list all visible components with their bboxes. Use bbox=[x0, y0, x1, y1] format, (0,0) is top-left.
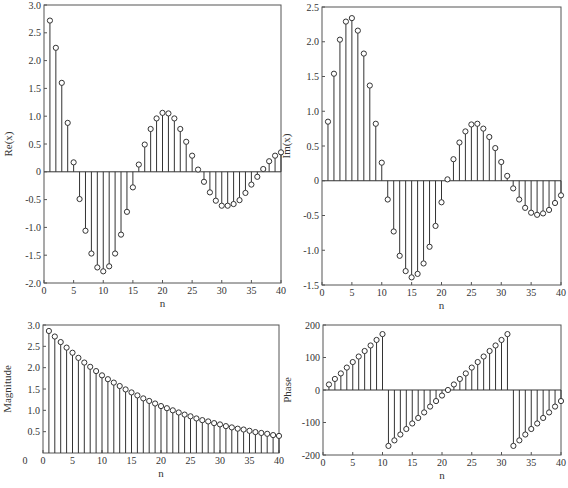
stem-marker bbox=[392, 438, 397, 443]
x-tick-label: 0 bbox=[41, 455, 46, 466]
stem-marker bbox=[439, 393, 444, 398]
y-axis-label: Phase bbox=[281, 377, 293, 403]
stem-marker bbox=[153, 401, 158, 406]
y-tick-label: 0.5 bbox=[307, 141, 320, 152]
stem-marker bbox=[422, 410, 427, 415]
stem-marker bbox=[46, 328, 51, 333]
stem-marker bbox=[219, 203, 224, 208]
stem-marker bbox=[170, 408, 175, 413]
stem-marker bbox=[160, 110, 165, 115]
x-tick-label: 15 bbox=[407, 457, 417, 468]
stem-marker bbox=[71, 160, 76, 165]
stem-marker bbox=[404, 426, 409, 431]
x-tick-label: 5 bbox=[349, 287, 354, 298]
x-tick-label: 5 bbox=[350, 457, 355, 468]
stem-marker bbox=[511, 443, 516, 448]
x-tick-label: 5 bbox=[71, 285, 76, 296]
stem-marker bbox=[332, 376, 337, 381]
stem-marker bbox=[540, 211, 545, 216]
x-tick-label: 0 bbox=[320, 287, 325, 298]
stem-marker bbox=[194, 416, 199, 421]
x-tick-label: 20 bbox=[158, 285, 168, 296]
y-tick-label: 100 bbox=[305, 352, 320, 363]
stem-marker bbox=[207, 190, 212, 195]
stem-plot-figure: 0510152025303540-2.0-1.5-1.0-0.500.51.01… bbox=[0, 0, 568, 488]
stem-marker bbox=[469, 365, 474, 370]
stem-marker bbox=[88, 364, 93, 369]
stem-marker bbox=[386, 443, 391, 448]
stem-marker bbox=[373, 121, 378, 126]
x-tick-label: 30 bbox=[497, 457, 507, 468]
x-tick-label: 20 bbox=[437, 287, 447, 298]
y-tick-label: -1.5 bbox=[303, 280, 319, 291]
stem-marker bbox=[355, 28, 360, 33]
stem-marker bbox=[463, 129, 468, 134]
stem-marker bbox=[158, 403, 163, 408]
x-tick-label: 35 bbox=[526, 457, 536, 468]
stem-marker bbox=[362, 348, 367, 353]
stem-marker bbox=[231, 201, 236, 206]
stem-marker bbox=[172, 116, 177, 121]
y-tick-label: -1.0 bbox=[303, 245, 319, 256]
stem-marker bbox=[107, 264, 112, 269]
stem-marker bbox=[326, 382, 331, 387]
y-tick-label: 1.0 bbox=[28, 405, 41, 416]
x-tick-label: 10 bbox=[98, 285, 108, 296]
x-tick-label: 20 bbox=[437, 457, 447, 468]
stem-marker bbox=[59, 80, 64, 85]
stem-marker bbox=[331, 71, 336, 76]
stem-marker bbox=[235, 426, 240, 431]
x-tick-label: 35 bbox=[245, 455, 255, 466]
y-tick-label: -0.5 bbox=[303, 210, 319, 221]
stem-marker bbox=[451, 157, 456, 162]
stem-marker bbox=[52, 334, 57, 339]
stem-marker bbox=[487, 348, 492, 353]
x-tick-label: 15 bbox=[128, 285, 138, 296]
stem-marker bbox=[379, 160, 384, 165]
y-tick-label: 0.5 bbox=[29, 139, 42, 150]
y-tick-label: 2.5 bbox=[29, 27, 42, 38]
stem-marker bbox=[511, 186, 516, 191]
stem-marker bbox=[200, 418, 205, 423]
stem-marker bbox=[178, 126, 183, 131]
stem-marker bbox=[475, 359, 480, 364]
stem-marker bbox=[148, 126, 153, 131]
stem-marker bbox=[265, 431, 270, 436]
stem-marker bbox=[493, 343, 498, 348]
stem-marker bbox=[547, 410, 552, 415]
x-tick-label: 25 bbox=[466, 287, 476, 298]
stem-marker bbox=[445, 177, 450, 182]
y-tick-label: 0.5 bbox=[28, 426, 41, 437]
x-tick-label: 40 bbox=[276, 285, 286, 296]
stem-marker bbox=[195, 167, 200, 172]
stem-marker bbox=[558, 398, 563, 403]
stem-marker bbox=[141, 396, 146, 401]
stem-marker bbox=[337, 37, 342, 42]
stem-marker bbox=[349, 16, 354, 21]
stem-marker bbox=[118, 232, 123, 237]
x-tick-label: 15 bbox=[407, 287, 417, 298]
stem-marker bbox=[558, 193, 563, 198]
stem-marker bbox=[190, 153, 195, 158]
y-tick-label: 1.0 bbox=[307, 106, 320, 117]
stem-marker bbox=[398, 432, 403, 437]
stem-marker bbox=[117, 383, 122, 388]
stem-marker bbox=[130, 185, 135, 190]
stem-marker bbox=[338, 371, 343, 376]
stem-marker bbox=[247, 428, 252, 433]
stem-marker bbox=[267, 159, 272, 164]
x-axis-label: n bbox=[439, 469, 445, 481]
x-axis-label: n bbox=[160, 297, 166, 309]
stem-marker bbox=[487, 134, 492, 139]
y-tick-label: -0.5 bbox=[25, 194, 41, 205]
stem-marker bbox=[241, 427, 246, 432]
stem-marker bbox=[237, 198, 242, 203]
stem-marker bbox=[445, 387, 450, 392]
stem-marker bbox=[271, 432, 276, 437]
stem-marker bbox=[499, 159, 504, 164]
stem-marker bbox=[457, 376, 462, 381]
stem-marker bbox=[403, 269, 408, 274]
stem-marker bbox=[276, 433, 281, 438]
stem-marker bbox=[481, 126, 486, 131]
stem-marker bbox=[77, 196, 82, 201]
